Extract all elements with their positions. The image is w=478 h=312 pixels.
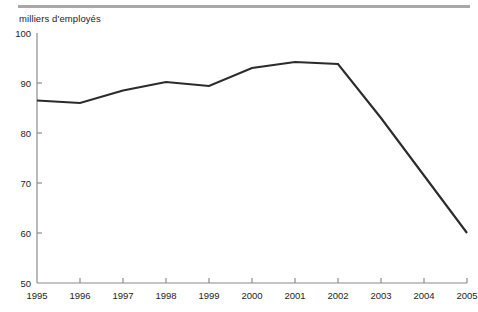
y-tick-label: 80 <box>5 128 31 139</box>
plot-area: 5060708090100 19951996199719981999200020… <box>0 0 478 312</box>
x-tick-label: 2005 <box>445 290 478 301</box>
x-tick-label: 1998 <box>144 290 188 301</box>
x-tick-label: 2003 <box>359 290 403 301</box>
x-tick-label: 2001 <box>273 290 317 301</box>
x-tick-label: 2002 <box>316 290 360 301</box>
x-tick-label: 1997 <box>101 290 145 301</box>
x-tick-label: 2004 <box>402 290 446 301</box>
y-tick-label: 100 <box>5 28 31 39</box>
axes-group <box>37 33 467 283</box>
chart-canvas <box>0 0 478 312</box>
x-tick-label: 1999 <box>187 290 231 301</box>
y-tick-label: 50 <box>5 278 31 289</box>
x-tick-marks <box>80 278 467 283</box>
x-tick-label: 1995 <box>15 290 59 301</box>
data-series-line <box>37 62 467 233</box>
x-tick-label: 1996 <box>58 290 102 301</box>
chart-figure: milliers d'employés 5060708090100 199519… <box>0 0 478 312</box>
y-axis-labels: 5060708090100 <box>0 0 31 312</box>
y-tick-label: 90 <box>5 78 31 89</box>
y-tick-label: 70 <box>5 178 31 189</box>
x-tick-label: 2000 <box>230 290 274 301</box>
y-tick-label: 60 <box>5 228 31 239</box>
y-tick-marks <box>37 83 42 233</box>
